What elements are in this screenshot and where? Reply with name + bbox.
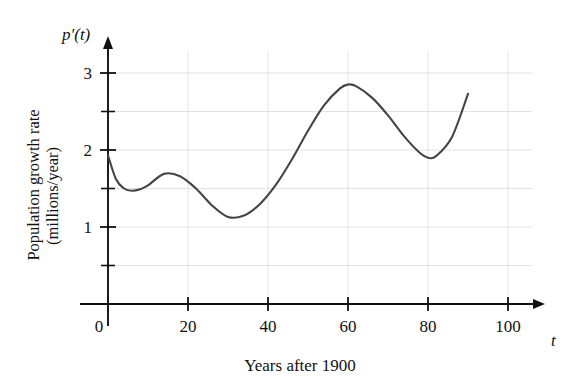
axes [80,36,545,326]
x-tick-label: 80 [420,317,437,336]
y-axis-title-line-1: Population growth rate [24,109,43,260]
x-tick-label: 0 [95,317,104,336]
y-axis-symbol-label: p′(t) [61,25,91,44]
y-tick-label: 3 [84,64,93,83]
x-tick-label: 100 [495,317,521,336]
x-tick-label: 40 [260,317,277,336]
y-tick-label: 1 [84,218,93,237]
x-axis-arrowhead [533,299,545,309]
x-axis-title: Years after 1900 [244,356,356,375]
x-tick-label: 20 [180,317,197,336]
x-axis-symbol-label: t [551,331,557,350]
gridlines [108,52,532,304]
y-axis-title-line-2: (millions/year) [43,147,62,245]
population-growth-rate-chart: 123020406080100 p′(t) t Years after 1900… [0,0,588,379]
y-axis-title: Population growth rate (millions/year) [24,109,62,260]
tick-marks [100,73,508,311]
y-axis-arrowhead [103,36,113,49]
chart-figure: 123020406080100 p′(t) t Years after 1900… [0,0,588,379]
y-tick-label: 2 [84,141,93,160]
data-curve [108,84,468,218]
series-line-population-growth-rate [108,84,468,218]
x-tick-label: 60 [340,317,357,336]
axis-tick-labels: 123020406080100 [84,64,521,336]
